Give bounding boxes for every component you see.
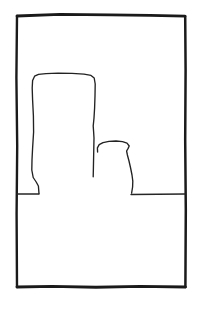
frame-left-edge — [16, 16, 17, 287]
drawing-frame — [16, 14, 185, 287]
frame-top-edge — [17, 14, 185, 16]
line-drawing — [0, 0, 202, 314]
frame-bottom-edge — [17, 286, 185, 287]
ground-line — [17, 194, 185, 195]
drawn-objects — [32, 73, 133, 193]
frame-right-edge — [185, 16, 186, 287]
sketch-canvas — [0, 0, 202, 314]
ground-line-right-segment — [131, 194, 185, 195]
large-block-outline — [32, 73, 95, 193]
vase-outline — [97, 141, 132, 193]
